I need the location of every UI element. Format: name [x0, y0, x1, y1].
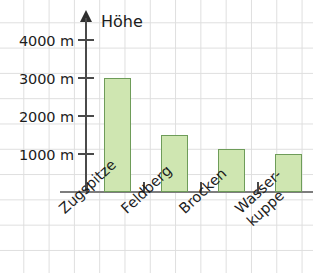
y-tick-label-1000: 1000 m	[19, 147, 74, 163]
y-tick-label-1000-wrap: 1000 m	[0, 145, 74, 164]
y-tick-label-2000: 2000 m	[19, 109, 74, 125]
y-axis-title: Höhe	[101, 12, 143, 31]
y-tick-label-4000: 4000 m	[19, 33, 74, 49]
y-axis-line	[85, 18, 87, 193]
y-tick-label-4000-wrap: 4000 m	[0, 31, 74, 50]
chart-plot-area: 1000 m 2000 m 3000 m 4000 m Höhe Zugspit…	[0, 0, 313, 273]
y-tick-mark-3000	[78, 77, 94, 79]
y-tick-mark-4000	[78, 39, 94, 41]
y-tick-label-3000-wrap: 3000 m	[0, 69, 74, 88]
y-tick-mark-1000	[78, 153, 94, 155]
y-tick-label-2000-wrap: 2000 m	[0, 107, 74, 126]
y-tick-label-3000: 3000 m	[19, 71, 74, 87]
y-tick-mark-2000	[78, 115, 94, 117]
bar-chart-screenshot: 1000 m 2000 m 3000 m 4000 m Höhe Zugspit…	[0, 0, 313, 273]
